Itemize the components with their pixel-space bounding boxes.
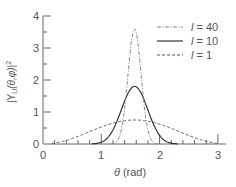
y-tick-label-1: 1 (33, 106, 39, 118)
legend: l = 40 l = 10 l = 1 (157, 21, 218, 61)
x-tick-label-3: 3 (215, 149, 221, 161)
legend-label-l1: l = 1 (191, 49, 212, 61)
y-tick-label-4: 4 (33, 10, 39, 22)
x-tick-label-1: 1 (98, 149, 104, 161)
x-axis-label: θ (rad) (114, 166, 146, 178)
x-tick-label-2: 2 (157, 149, 163, 161)
x-tick-labels: 0 1 2 3 (40, 149, 221, 161)
y-axis-label: |Yl,l(θ,φ)|2 (5, 61, 18, 103)
y-tick-labels: 0 1 2 3 4 (33, 10, 39, 150)
y-ticks (43, 16, 51, 128)
legend-item-l10: l = 10 (157, 35, 218, 47)
legend-item-l1: l = 1 (157, 49, 212, 61)
y-tick-label-0: 0 (33, 138, 39, 150)
chart: 0 1 2 3 4 0 1 2 3 θ (rad) |Yl,l(θ,φ)|2 l… (0, 0, 236, 187)
legend-item-l40: l = 40 (157, 21, 218, 33)
series-l10-line (92, 86, 178, 143)
y-axis-label-sup: 2 (5, 61, 12, 65)
y-tick-label-2: 2 (33, 74, 39, 86)
series-l1-line (52, 120, 218, 144)
y-tick-label-3: 3 (33, 42, 39, 54)
y-axis-label-args: (θ,φ)| (6, 65, 17, 89)
x-tick-label-0: 0 (40, 149, 46, 161)
legend-label-l40: l = 40 (191, 21, 218, 33)
x-axis-label-unit: (rad) (120, 166, 146, 178)
y-axis-label-main: |Y (6, 94, 17, 104)
legend-label-l10: l = 10 (191, 35, 218, 47)
x-ticks (55, 134, 218, 144)
